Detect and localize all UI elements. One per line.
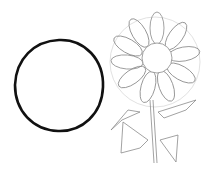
sunflower: [110, 12, 201, 163]
leaf-left-lower: [121, 122, 148, 153]
bold-circle: [15, 40, 103, 131]
flower-disc: [142, 43, 172, 73]
sketch-canvas: [0, 0, 212, 174]
stem: [150, 100, 157, 163]
leaf-left: [111, 110, 140, 130]
leaf-right: [158, 100, 196, 118]
leaf-right-lower: [160, 135, 178, 162]
